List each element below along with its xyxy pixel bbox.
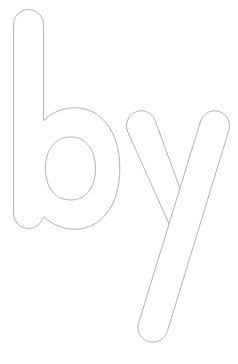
word-outline-artwork (0, 0, 238, 364)
letter-b-counter-outline (46, 137, 96, 200)
letter-b (14, 10, 120, 230)
letter-y (127, 111, 230, 342)
coloring-worksheet-page: by (0, 0, 238, 364)
